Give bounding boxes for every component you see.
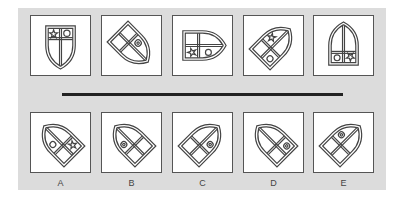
answer-label-e: E <box>313 178 374 188</box>
shield-icon <box>31 16 90 75</box>
answer-shield-e[interactable] <box>313 112 374 173</box>
answer-label-b: B <box>101 178 162 188</box>
answer-label-c: C <box>172 178 233 188</box>
answer-shield-d[interactable] <box>243 112 304 173</box>
question-shield-4 <box>243 15 304 76</box>
answer-label-a: A <box>30 178 91 188</box>
answer-label-d: D <box>243 178 304 188</box>
question-shield-2 <box>101 15 162 76</box>
divider-line <box>62 93 343 96</box>
answer-shield-a[interactable] <box>30 112 91 173</box>
answer-shield-c[interactable] <box>172 112 233 173</box>
answer-shield-b[interactable] <box>101 112 162 173</box>
question-shield-3 <box>172 15 233 76</box>
question-shield-5 <box>313 15 374 76</box>
question-shield-1 <box>30 15 91 76</box>
